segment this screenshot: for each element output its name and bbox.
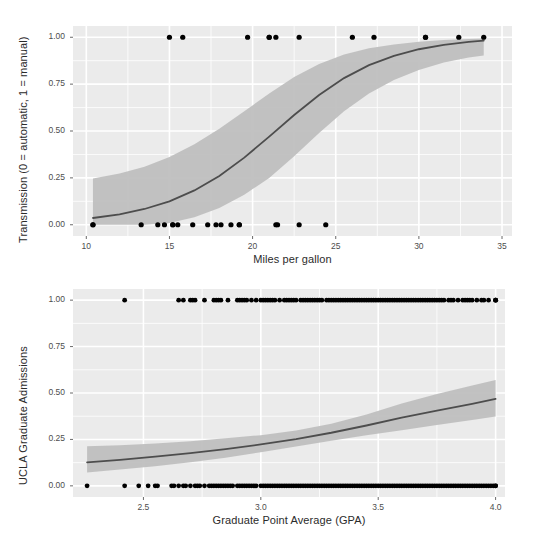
data-point [245,35,250,40]
y-tick-label: 0.00 [27,219,65,229]
data-point [170,222,175,227]
data-point [456,35,461,40]
data-point [213,222,218,227]
data-point [226,298,231,303]
data-point [155,222,160,227]
x-tick-label: 10 [66,241,106,251]
data-point [218,222,223,227]
data-point [205,222,210,227]
y-tick-label: 0.00 [27,480,65,490]
data-point [481,298,486,303]
x-tick-label: 20 [233,241,273,251]
data-point [486,298,491,303]
figure-container: Transmission (0 = automatic, 1 = manual)… [0,0,541,552]
data-point [228,222,233,227]
data-point [273,298,278,303]
data-point [323,222,328,227]
data-point [136,483,141,488]
plot-panel-admissions: UCLA Graduate Admissions Graduate Point … [0,270,541,552]
data-point [493,298,498,303]
data-point [267,35,272,40]
x-tick-label: 35 [482,241,522,251]
data-point [122,298,127,303]
data-point [451,298,456,303]
x-tick-label: 2.5 [123,502,163,512]
x-tick-label: 3.0 [241,502,281,512]
x-axis-title-transmission: Miles per gallon [73,253,512,265]
data-point [193,298,198,303]
x-tick-label: 25 [316,241,356,251]
data-point [162,222,167,227]
y-tick-label: 0.50 [27,387,65,397]
y-tick-label: 0.75 [27,341,65,351]
data-point [237,222,242,227]
data-point [493,483,498,488]
x-tick-label: 30 [399,241,439,251]
y-axis-title-transmission: Transmission (0 = automatic, 1 = manual) [17,36,29,243]
plot-panel-transmission: Transmission (0 = automatic, 1 = manual)… [0,0,541,270]
data-point [273,35,278,40]
data-point [297,35,302,40]
data-point [297,222,302,227]
data-point [456,298,461,303]
data-point [90,222,95,227]
transmission-plot-svg [0,0,541,270]
y-tick-label: 0.75 [27,78,65,88]
y-tick-label: 0.25 [27,172,65,182]
data-point [254,298,259,303]
x-tick-label: 15 [149,241,189,251]
data-point [146,483,151,488]
data-point [122,483,127,488]
data-point [176,483,181,488]
data-point [219,298,224,303]
y-tick-label: 1.00 [27,294,65,304]
data-point [183,483,188,488]
y-tick-label: 0.50 [27,125,65,135]
y-axis-title-admissions: UCLA Graduate Admissions [17,346,29,485]
data-point [371,35,376,40]
data-point [275,222,280,227]
data-point [188,483,193,488]
data-point [294,298,299,303]
x-axis-title-admissions: Graduate Point Average (GPA) [73,514,505,526]
data-point [85,483,90,488]
data-point [254,483,259,488]
data-point [172,483,177,488]
x-tick-label: 3.5 [358,502,398,512]
data-point [277,298,282,303]
y-tick-label: 0.25 [27,433,65,443]
data-point [423,35,428,40]
data-point [202,298,207,303]
data-point [319,298,324,303]
data-point [350,35,355,40]
data-point [481,35,486,40]
data-point [167,35,172,40]
data-point [197,483,202,488]
data-point [244,298,249,303]
y-tick-label: 1.00 [27,31,65,41]
data-point [139,222,144,227]
data-point [190,222,195,227]
data-point [176,298,181,303]
data-point [442,298,447,303]
data-point [181,298,186,303]
data-point [249,298,254,303]
data-point [175,222,180,227]
x-tick-label: 4.0 [476,502,516,512]
data-point [155,483,160,488]
data-point [470,298,475,303]
data-point [180,35,185,40]
data-point [474,298,479,303]
data-point [202,483,207,488]
data-point [230,483,235,488]
